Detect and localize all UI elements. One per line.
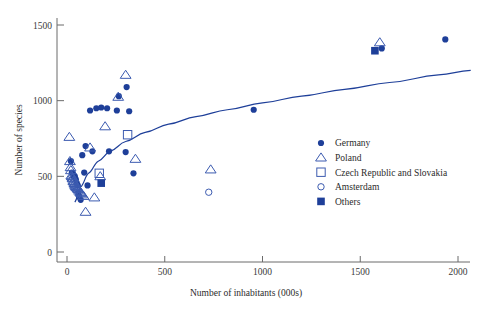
y-axis-title: Number of species: [14, 104, 24, 176]
data-point: [89, 193, 100, 201]
legend-label: Germany: [335, 138, 371, 148]
data-point: [95, 172, 106, 180]
legend-marker-filled-square: [317, 198, 325, 206]
data-points: [64, 36, 448, 215]
data-point: [251, 107, 257, 113]
x-axis-title: Number of inhabitants (000s): [190, 288, 302, 299]
data-point: [87, 107, 93, 113]
legend-marker-filled-circle: [318, 140, 324, 146]
data-point: [98, 104, 104, 110]
data-point: [205, 165, 216, 173]
data-point: [97, 179, 105, 187]
data-point: [84, 182, 90, 188]
series-amsterdam: [206, 189, 212, 195]
y-tick-label: 0: [47, 248, 52, 258]
data-point: [104, 105, 110, 111]
tick-labels: 0500100015000500100015002000: [33, 21, 468, 278]
x-tick-label: 500: [158, 267, 173, 277]
legend-marker-open-circle: [318, 184, 324, 190]
x-tick-label: 0: [65, 267, 70, 277]
axes: [57, 18, 470, 262]
data-point: [114, 107, 120, 113]
scatter-plot: 0500100015000500100015002000 GermanyPola…: [0, 0, 492, 309]
y-tick-label: 500: [38, 172, 53, 182]
trend-line: [75, 70, 471, 202]
legend-label: Czech Republic and Slovakia: [335, 168, 448, 178]
data-point: [81, 169, 87, 175]
legend: GermanyPolandCzech Republic and Slovakia…: [316, 138, 448, 206]
legend-label: Others: [335, 197, 361, 207]
data-point: [123, 131, 131, 139]
x-tick-label: 1000: [253, 267, 272, 277]
data-point: [374, 38, 385, 46]
series-others: [97, 47, 378, 187]
chart-page: 0500100015000500100015002000 GermanyPola…: [0, 0, 492, 309]
data-point: [371, 47, 379, 55]
data-point: [79, 152, 85, 158]
fit-curve: [75, 70, 471, 202]
data-point: [130, 154, 141, 162]
data-point: [100, 122, 111, 130]
data-point: [206, 189, 212, 195]
y-tick-label: 1000: [33, 96, 52, 106]
series-germany: [68, 36, 449, 203]
data-point: [442, 36, 448, 42]
legend-marker-open-triangle: [316, 153, 327, 161]
legend-label: Amsterdam: [335, 182, 380, 192]
data-point: [123, 149, 129, 155]
data-point: [80, 207, 91, 215]
y-tick-label: 1500: [33, 21, 52, 31]
data-point: [124, 84, 130, 90]
data-point: [126, 108, 132, 114]
data-point: [120, 70, 131, 78]
x-tick-label: 1500: [351, 267, 370, 277]
data-point: [64, 132, 75, 140]
tick-marks: [57, 25, 458, 262]
x-tick-label: 2000: [449, 267, 468, 277]
data-point: [106, 148, 112, 154]
legend-marker-open-square: [317, 168, 325, 176]
legend-label: Poland: [335, 153, 362, 163]
data-point: [130, 170, 136, 176]
